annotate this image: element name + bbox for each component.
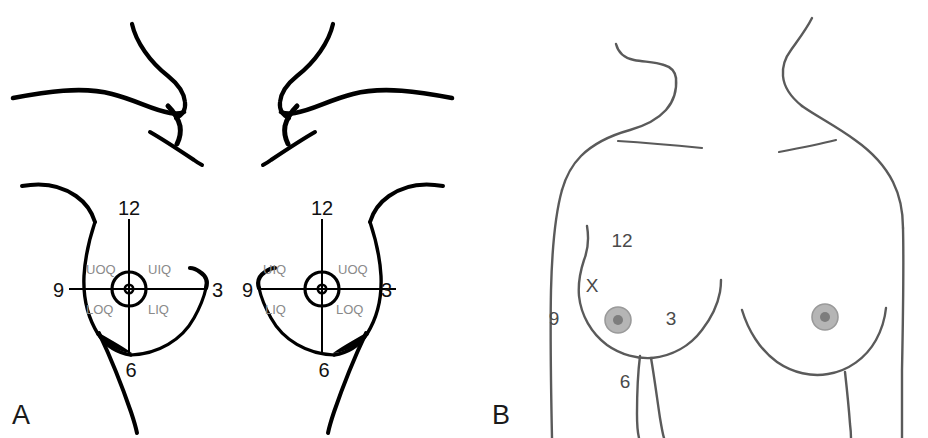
panel-a-right-quadrant-uoq: UOQ <box>338 262 368 277</box>
panel-b-lesion-mark-x: X <box>586 275 599 296</box>
panel-b-breast-right-outline <box>742 308 886 438</box>
panel-a-left-clock-6: 6 <box>125 359 136 381</box>
panel-a-upper-torso-right <box>263 24 452 165</box>
panel-b-breast-right-nipple <box>812 304 838 330</box>
panel-a-right-clock-12: 12 <box>311 197 333 219</box>
panel-a-left-quadrant-uiq: UIQ <box>148 262 171 277</box>
panel-a-group: 12 3 6 9 UOQ UIQ LOQ LIQ <box>12 24 452 433</box>
panel-b-breast-left-outline <box>579 226 721 438</box>
panel-b-breast-left-nipple <box>605 307 631 333</box>
panel-b-torso-right <box>779 18 903 438</box>
panel-a-right-clock-3: 3 <box>381 279 392 301</box>
panel-b-left-clock-3: 3 <box>666 308 677 329</box>
panel-a-right-clock-9: 9 <box>242 279 253 301</box>
panel-a-right-quadrant-loq: LOQ <box>336 302 363 317</box>
panel-a-left-quadrant-uoq: UOQ <box>86 262 116 277</box>
panel-a-left-clock-3: 3 <box>212 279 223 301</box>
panel-a-upper-torso-left <box>13 24 202 165</box>
panel-a-left-clock-9: 9 <box>53 279 64 301</box>
panel-b-left-clock-9: 9 <box>549 308 560 329</box>
panel-a-right-quadrant-liq: LIQ <box>265 302 286 317</box>
panel-b-left-clock-12: 12 <box>611 230 632 251</box>
panel-b-label: B <box>492 400 510 430</box>
panel-a-right-clock-6: 6 <box>318 359 329 381</box>
panel-b-group: 12 3 6 9 X B <box>492 18 903 438</box>
panel-a-breast-left-outline <box>22 184 207 433</box>
panel-a-right-quadrant-uiq: UIQ <box>263 262 286 277</box>
panel-a-left-clock-12: 12 <box>118 197 140 219</box>
panel-a-left-quadrant-loq: LOQ <box>86 302 113 317</box>
panel-a-left-quadrant-liq: LIQ <box>148 302 169 317</box>
breast-localization-figure: 12 3 6 9 UOQ UIQ LOQ LIQ <box>0 0 928 438</box>
panel-a-label: A <box>12 400 30 430</box>
panel-b-left-clock-6: 6 <box>620 371 631 392</box>
